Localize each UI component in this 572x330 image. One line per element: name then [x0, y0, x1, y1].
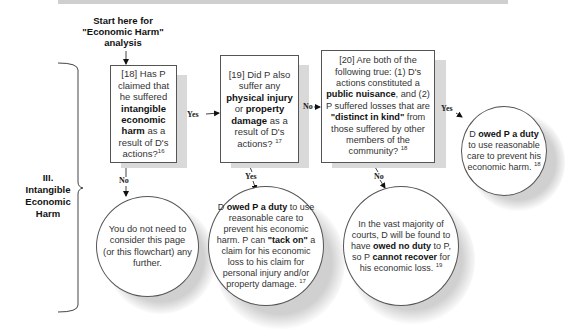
r20-yes-text-end: to use reasonable care to prevent his ec…: [467, 140, 541, 172]
edge-label-18-yes: Yes: [187, 110, 199, 119]
q19-text: [19] Did P also suffer any: [229, 69, 291, 91]
result-20-no-circle: In the vast majority of courts, D will b…: [343, 186, 459, 306]
footnote-ref: 18: [401, 145, 408, 151]
footnote-ref: 17: [299, 278, 306, 284]
question-20-box: [20] Are both of the following true: (1)…: [321, 50, 435, 163]
edge-label-19-no: No: [303, 102, 313, 111]
question-19-box: [19] Did P also suffer any physical inju…: [220, 55, 299, 163]
r19-bold: "tack on": [268, 235, 308, 245]
q19-bold: physical injury: [226, 92, 293, 103]
footnote-ref: 16: [158, 148, 165, 154]
result-19-yes-circle: D owed P a duty to use reasonable care t…: [208, 186, 324, 306]
r19-bold: owed P a duty: [227, 202, 287, 212]
r19-text: D: [218, 202, 227, 212]
r20-yes-bold: owed P a duty: [478, 129, 538, 139]
section-line: Harm: [20, 208, 76, 220]
r20-no-bold: cannot recover: [372, 252, 437, 262]
q20-bold: "distinct in kind": [331, 112, 405, 122]
footnote-ref: 18: [534, 161, 541, 167]
section-line: Intangible: [20, 184, 76, 196]
footnote-ref: 19: [436, 262, 443, 268]
r20-no-bold: owed no duty: [373, 241, 431, 251]
q20-text: [20] Are both of the following true: (1)…: [335, 55, 421, 88]
result-18-no-circle: You do not need to consider this page (o…: [96, 196, 199, 297]
r18-no-text: You do not need to consider this page (o…: [103, 224, 192, 269]
section-label: III. Intangible Economic Harm: [20, 172, 76, 220]
edge-label-18-no: No: [119, 176, 129, 185]
question-18-box: [18] Has P claimed that he suffered inta…: [110, 65, 177, 163]
section-numeral: III.: [20, 172, 76, 184]
q18-text: [18] Has P claimed that he suffered: [118, 68, 169, 102]
q19-text-mid: or: [235, 103, 246, 114]
edge-label-20-no: No: [374, 172, 384, 181]
result-20-yes-circle: D owed P a duty to use reasonable care t…: [461, 106, 547, 196]
q20-bold: public nuisance: [326, 89, 395, 99]
edge-label-20-yes: Yes: [441, 104, 453, 113]
edge-label-19-yes: Yes: [245, 172, 257, 181]
section-line: Economic: [20, 196, 76, 208]
footnote-ref: 17: [275, 137, 282, 143]
r20-yes-text: D: [469, 129, 478, 139]
